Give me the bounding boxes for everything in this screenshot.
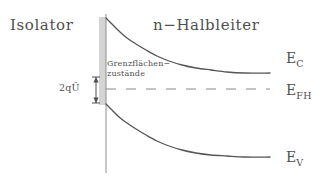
band-bending-label: 2qŨ	[59, 83, 80, 93]
energy-label-conduction-band: EC	[286, 51, 304, 68]
energy-label-fermi-level: EFH	[286, 83, 312, 100]
interface-states-hatching	[99, 18, 106, 104]
region-label-isolator: Isolator	[10, 18, 73, 33]
energy-subscript-ev: V	[296, 157, 303, 168]
band-bending-arrow	[92, 77, 100, 103]
energy-subscript-efh: FH	[296, 90, 311, 101]
interface-states-line-1: Grenzflächen−	[107, 59, 170, 69]
valence-band-curve	[106, 104, 270, 157]
interface-states-line-2: zustände	[107, 69, 170, 79]
energy-label-valence-band: EV	[286, 150, 303, 167]
band-diagram: Isolator n−Halbleiter EC EFH EV Grenzflä…	[0, 0, 328, 185]
energy-subscript-ec: C	[296, 58, 304, 69]
energy-symbol-efh: E	[286, 82, 296, 98]
interface-states-label: Grenzflächen− zustände	[107, 59, 170, 78]
energy-symbol-ev: E	[286, 149, 296, 165]
energy-symbol-ec: E	[286, 50, 296, 66]
region-label-semiconductor: n−Halbleiter	[153, 18, 259, 33]
